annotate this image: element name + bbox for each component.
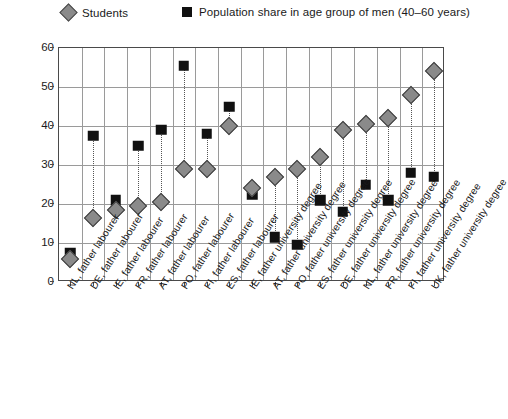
diamond-marker-icon	[59, 3, 77, 21]
data-point-population-share	[88, 131, 99, 142]
data-point-students	[311, 148, 329, 166]
data-point-students	[84, 208, 102, 226]
gridline-vertical	[127, 48, 128, 280]
legend-item-population-share: Population share in age group of men (40…	[182, 6, 470, 18]
y-axis-tick-mark	[50, 125, 54, 126]
y-axis-tick-mark	[50, 164, 54, 165]
data-point-students	[379, 109, 397, 127]
data-point-students	[266, 167, 284, 185]
gridline-vertical	[104, 48, 105, 280]
connector-line	[161, 130, 162, 202]
connector-line	[411, 95, 412, 173]
connector-line	[184, 66, 185, 169]
gridline-vertical	[173, 48, 174, 280]
data-point-students	[356, 115, 374, 133]
connector-line	[434, 71, 435, 176]
gridline-vertical	[377, 48, 378, 280]
data-point-students	[424, 62, 442, 80]
y-axis-tick-mark	[50, 47, 54, 48]
gridline-vertical	[286, 48, 287, 280]
connector-line	[343, 130, 344, 212]
legend-label-population-share: Population share in age group of men (40…	[199, 6, 470, 18]
data-point-population-share	[224, 101, 235, 112]
y-axis: 0102030405060	[22, 47, 54, 281]
gridline-vertical	[263, 48, 264, 280]
x-axis-labels: NL, father labourerDE, father labourerIE…	[0, 281, 460, 419]
data-point-students	[220, 117, 238, 135]
gridline-horizontal	[59, 126, 443, 127]
data-point-population-share	[133, 140, 144, 151]
data-point-students	[334, 121, 352, 139]
gridline-vertical	[195, 48, 196, 280]
gridline-vertical	[331, 48, 332, 280]
chart-legend: Students Population share in age group o…	[0, 4, 460, 28]
gridline-horizontal	[59, 87, 443, 88]
data-point-students	[197, 160, 215, 178]
square-marker-icon	[182, 7, 192, 17]
y-axis-tick-mark	[50, 242, 54, 243]
gridline-horizontal	[59, 165, 443, 166]
legend-item-students: Students	[62, 6, 128, 19]
data-point-students	[402, 86, 420, 104]
y-axis-tick-mark	[50, 86, 54, 87]
data-point-population-share	[156, 125, 167, 136]
connector-line	[93, 136, 94, 218]
gridline-vertical	[354, 48, 355, 280]
legend-label-students: Students	[82, 7, 128, 19]
gridline-vertical	[82, 48, 83, 280]
data-point-population-share	[201, 129, 212, 140]
gridline-vertical	[218, 48, 219, 280]
y-axis-tick-mark	[50, 203, 54, 204]
data-point-students	[243, 179, 261, 197]
data-point-students	[152, 193, 170, 211]
data-point-students	[175, 160, 193, 178]
data-point-population-share	[179, 60, 190, 71]
gridline-vertical	[422, 48, 423, 280]
data-point-students	[288, 160, 306, 178]
